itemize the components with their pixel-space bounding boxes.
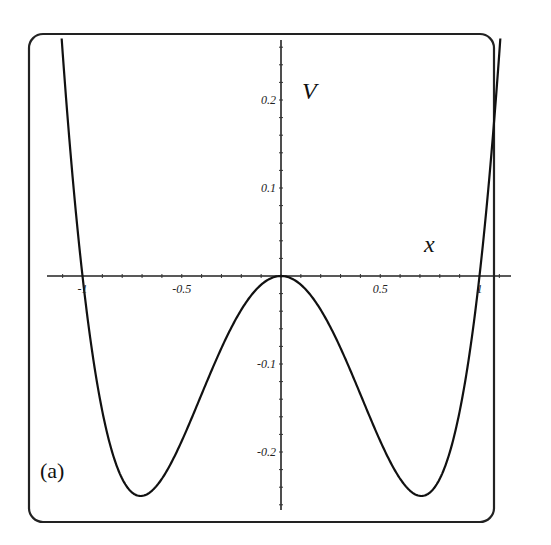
x-tick-label: -0.5 [172, 282, 191, 296]
y-tick-label: -0.2 [257, 445, 276, 459]
y-tick-label: 0.2 [261, 93, 276, 107]
y-axis-label: V [302, 78, 319, 104]
y-tick-label: -0.1 [257, 357, 276, 371]
y-tick-label: 0.1 [261, 181, 276, 195]
panel-label: (a) [40, 458, 64, 483]
x-tick-label: 0.5 [373, 282, 388, 296]
x-tick-label: -1 [78, 282, 88, 296]
chart: -1-0.50.51 0.20.1-0.1-0.2 V x (a) [0, 0, 551, 545]
x-tick-label: 1 [477, 282, 483, 296]
x-axis-label: x [423, 231, 435, 257]
